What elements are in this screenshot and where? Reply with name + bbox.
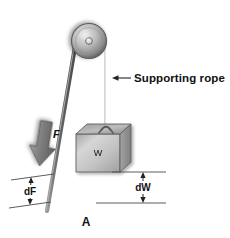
dw-label: dW bbox=[135, 182, 151, 193]
diagram-canvas: W F Supporting rope dW bbox=[0, 0, 230, 238]
panel-label: A bbox=[82, 215, 91, 229]
force-arrow-label: F bbox=[53, 128, 60, 140]
pulley-wheel bbox=[72, 24, 107, 59]
df-label: dF bbox=[24, 186, 36, 197]
pulley-specular-highlight bbox=[79, 29, 89, 39]
weight-block: W bbox=[76, 124, 131, 172]
supporting-rope-label: Supporting rope bbox=[134, 72, 225, 84]
weight-label: W bbox=[94, 148, 103, 158]
figure-background bbox=[0, 0, 230, 238]
pulley-diagram-figure: W F Supporting rope dW bbox=[0, 0, 230, 238]
